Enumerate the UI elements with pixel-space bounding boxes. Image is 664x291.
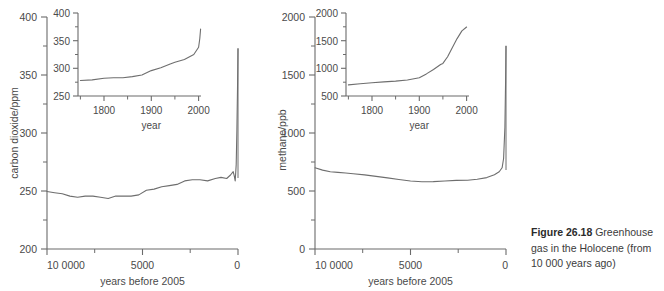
co2-y-label-400: 400 <box>19 11 37 23</box>
ch4-inset-xaxis-title: year <box>410 120 430 131</box>
co2-inset-y-label-300: 300 <box>53 63 70 74</box>
co2-inset-dataline <box>80 29 200 81</box>
figure-caption: Figure 26.18 Greenhouse gas in the Holoc… <box>531 225 659 272</box>
ch4-yaxis-title: methane/ppb <box>276 109 288 170</box>
chart-panel-carbon-dioxide: 400 350 300 250 200 10 0000 5000 0 years… <box>0 0 265 291</box>
carbon-dioxide-chart-svg: 400 350 300 250 200 10 0000 5000 0 years… <box>0 0 265 291</box>
co2-inset-y-label-250: 250 <box>53 91 70 102</box>
co2-yaxis-title: carbon dioxide/ppm <box>8 87 20 179</box>
co2-inset-xaxis-title: year <box>142 120 162 131</box>
co2-inset-x-label-1900: 1900 <box>140 105 163 116</box>
ch4-y-label-2000: 2000 <box>282 11 306 23</box>
ch4-y-label-0: 0 <box>299 243 305 255</box>
ch4-main-axes <box>309 17 506 255</box>
figure-caption-label: Figure 26.18 <box>531 226 592 238</box>
co2-inset-y-label-400: 400 <box>53 8 70 19</box>
co2-inset-chart: 400 350 300 250 1800 1900 2000 year <box>53 8 210 131</box>
co2-y-label-350: 350 <box>19 69 37 81</box>
ch4-inset-x-label-1900: 1900 <box>408 105 431 116</box>
ch4-inset-chart: 2000 1500 1000 500 1800 1900 2000 year <box>316 8 478 131</box>
co2-xaxis-title: years before 2005 <box>100 275 185 287</box>
ch4-y-label-1500: 1500 <box>282 69 306 81</box>
ch4-inset-y-label-500: 500 <box>321 91 338 102</box>
ch4-x-label-5000: 5000 <box>399 259 423 271</box>
co2-y-label-250: 250 <box>19 185 37 197</box>
co2-x-label-10000: 10 0000 <box>47 259 85 271</box>
figure-greenhouse-gas-holocene: 400 350 300 250 200 10 0000 5000 0 years… <box>0 0 664 291</box>
ch4-x-label-0: 0 <box>502 259 508 271</box>
co2-inset-y-label-350: 350 <box>53 36 70 47</box>
ch4-inset-x-label-2000: 2000 <box>455 105 478 116</box>
ch4-inset-y-label-1000: 1000 <box>316 63 339 74</box>
ch4-x-label-10000: 10 0000 <box>315 259 353 271</box>
methane-chart-svg: 2000 1500 1000 500 0 10 0000 5000 0 year… <box>262 0 527 291</box>
ch4-y-label-500: 500 <box>287 185 305 197</box>
co2-y-label-300: 300 <box>19 127 37 139</box>
ch4-inset-y-label-2000: 2000 <box>316 8 339 19</box>
ch4-inset-y-label-1500: 1500 <box>316 36 339 47</box>
co2-inset-x-label-2000: 2000 <box>187 105 210 116</box>
co2-x-label-5000: 5000 <box>131 259 155 271</box>
co2-main-axes <box>41 17 238 255</box>
co2-inset-x-label-1800: 1800 <box>93 105 116 116</box>
ch4-inset-dataline <box>348 27 466 85</box>
co2-y-label-200: 200 <box>19 243 37 255</box>
co2-x-label-0: 0 <box>234 259 240 271</box>
ch4-inset-x-label-1800: 1800 <box>361 105 384 116</box>
ch4-xaxis-title: years before 2005 <box>368 275 453 287</box>
chart-panel-methane: 2000 1500 1000 500 0 10 0000 5000 0 year… <box>262 0 527 291</box>
